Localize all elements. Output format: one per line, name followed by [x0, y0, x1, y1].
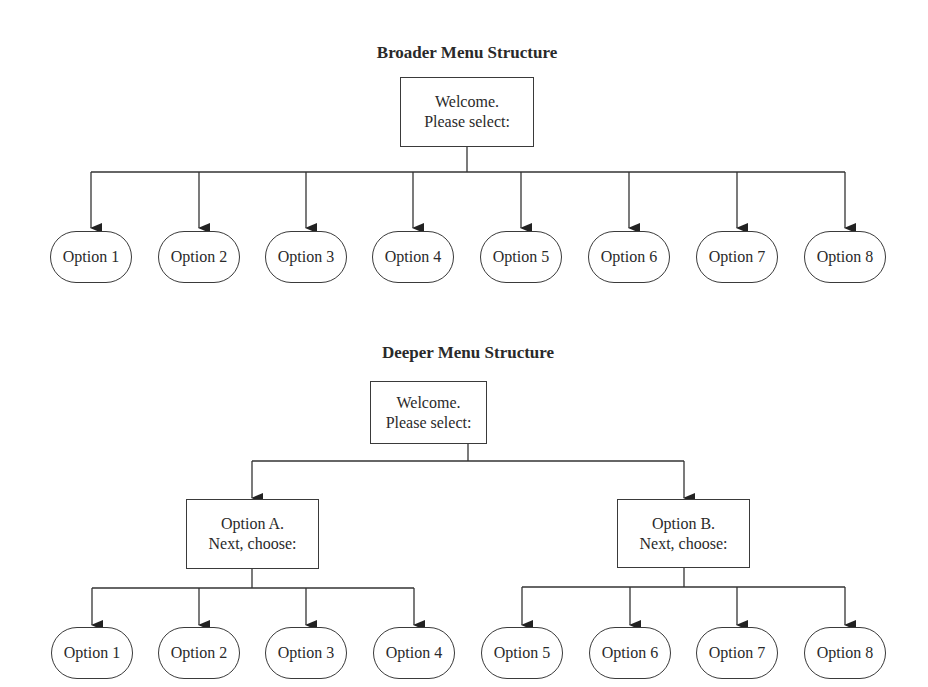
branch-a-line1: Option A. — [221, 514, 284, 534]
broader-option-5: Option 5 — [480, 231, 562, 283]
deeper-option-2: Option 2 — [158, 627, 240, 679]
broader-root-box: Welcome. Please select: — [400, 77, 534, 147]
broader-option-2: Option 2 — [158, 231, 240, 283]
branch-b-line1: Option B. — [652, 514, 715, 534]
broader-option-8: Option 8 — [804, 231, 886, 283]
broader-option-7: Option 7 — [696, 231, 778, 283]
broader-option-4: Option 4 — [372, 231, 454, 283]
deeper-option-8: Option 8 — [804, 627, 886, 679]
root-line1: Welcome. — [435, 92, 499, 112]
deeper-root-box: Welcome. Please select: — [370, 381, 487, 444]
branch-a-line2: Next, choose: — [209, 534, 297, 554]
root-line1: Welcome. — [396, 393, 460, 413]
branch-a-box: Option A. Next, choose: — [186, 499, 319, 569]
broader-title: Broader Menu Structure — [317, 43, 617, 63]
broader-option-6: Option 6 — [588, 231, 670, 283]
deeper-option-1: Option 1 — [51, 627, 133, 679]
deeper-option-5: Option 5 — [481, 627, 563, 679]
deeper-option-4: Option 4 — [373, 627, 455, 679]
branch-b-line2: Next, choose: — [640, 534, 728, 554]
deeper-option-3: Option 3 — [265, 627, 347, 679]
deeper-option-7: Option 7 — [696, 627, 778, 679]
root-line2: Please select: — [424, 112, 510, 132]
broader-option-3: Option 3 — [265, 231, 347, 283]
broader-option-1: Option 1 — [50, 231, 132, 283]
branch-b-box: Option B. Next, choose: — [617, 499, 750, 568]
deeper-option-6: Option 6 — [589, 627, 671, 679]
root-line2: Please select: — [386, 413, 472, 433]
deeper-title: Deeper Menu Structure — [318, 343, 618, 363]
